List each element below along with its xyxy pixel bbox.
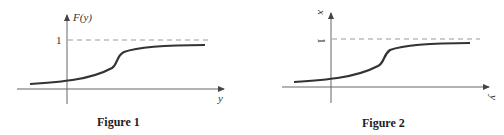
caption-figure-1: Figure 1 bbox=[97, 115, 140, 129]
figures-canvas: 1 F(y) y Figure 1 1 x y Figure 2 bbox=[0, 0, 504, 135]
s-curve bbox=[30, 45, 205, 84]
x-axis-label: y bbox=[217, 92, 223, 104]
x-axis-label: y bbox=[488, 94, 500, 100]
tick-1: 1 bbox=[316, 38, 328, 44]
y-axis-label: x bbox=[316, 9, 328, 15]
figure-1: 1 F(y) y Figure 1 bbox=[17, 11, 224, 129]
y-axis-label: F(y) bbox=[72, 11, 92, 24]
s-curve bbox=[294, 43, 470, 82]
figure-2: 1 x y Figure 2 bbox=[282, 9, 500, 130]
tick-1: 1 bbox=[56, 34, 62, 46]
caption-figure-2: Figure 2 bbox=[362, 116, 405, 130]
